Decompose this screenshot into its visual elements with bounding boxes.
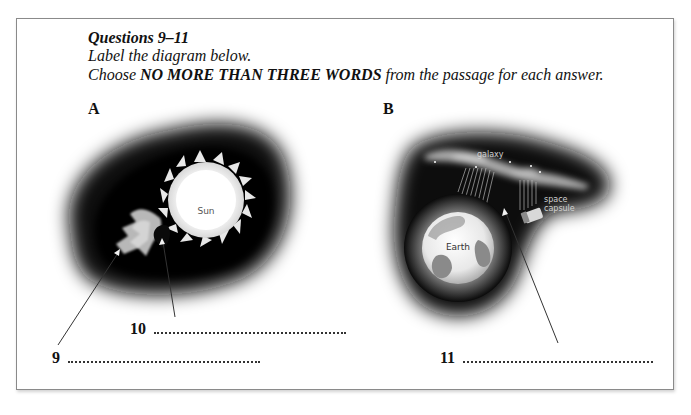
answer-11: 11: [440, 349, 653, 367]
diagram-b: galaxy space capsule: [394, 132, 610, 343]
capsule-label-space: space: [544, 195, 568, 204]
answer-9: 9: [52, 349, 260, 367]
answer-11-blank[interactable]: [463, 349, 653, 363]
diagram-a: Sun: [58, 124, 291, 345]
answer-9-blank[interactable]: [68, 349, 260, 363]
galaxy-label: galaxy: [477, 150, 504, 159]
answer-10: 10: [130, 320, 346, 338]
answer-11-number: 11: [440, 349, 455, 366]
sun-label: Sun: [197, 206, 214, 216]
earth-label: Earth: [446, 242, 470, 252]
answer-10-blank[interactable]: [154, 320, 346, 334]
capsule-label-capsule: capsule: [544, 204, 575, 213]
answer-10-number: 10: [130, 320, 146, 337]
answer-9-number: 9: [52, 349, 60, 366]
